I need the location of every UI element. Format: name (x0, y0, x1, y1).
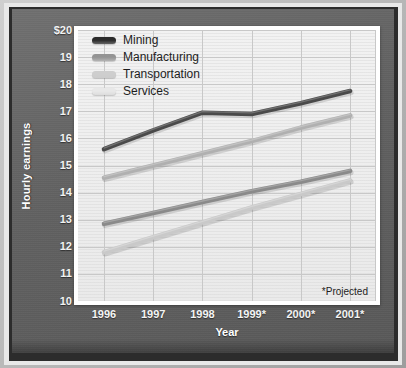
legend-swatch-icon (92, 37, 116, 44)
x-axis-ticks: 1996199719981999*2000*2001* (74, 308, 380, 324)
x-tick-label: 2001* (322, 308, 378, 320)
y-tick-label: 19 (30, 52, 72, 63)
y-tick-label: 11 (30, 268, 72, 279)
legend-item-manufacturing: Manufacturing (92, 49, 200, 65)
y-tick-label: $20 (30, 25, 72, 36)
y-tick-label: 17 (30, 106, 72, 117)
x-tick-label: 1996 (76, 308, 132, 320)
legend-label: Transportation (123, 68, 200, 80)
legend-swatch-icon (92, 71, 116, 78)
y-tick-label: 15 (30, 160, 72, 171)
y-tick-label: 18 (30, 79, 72, 90)
plot-area-frame: MiningManufacturingTransportationService… (74, 26, 380, 305)
legend-swatch-icon (92, 54, 116, 61)
chart-panel: Hourly earnings $2019181716151413121110 … (12, 9, 394, 353)
y-axis-ticks: $2019181716151413121110 (26, 9, 72, 353)
y-tick-label: 14 (30, 187, 72, 198)
legend-label: Services (123, 85, 169, 97)
y-tick-label: 12 (30, 241, 72, 252)
x-axis-title: Year (74, 326, 380, 338)
chart-frame-outer: Hourly earnings $2019181716151413121110 … (0, 0, 406, 368)
y-tick-label: 16 (30, 133, 72, 144)
legend-item-transportation: Transportation (92, 66, 200, 82)
x-tick-label: 1998 (174, 308, 230, 320)
x-tick-label: 1997 (125, 308, 181, 320)
legend-item-mining: Mining (92, 32, 200, 48)
projected-note: *Projected (322, 286, 368, 297)
chart-legend: MiningManufacturingTransportationService… (92, 32, 200, 100)
legend-label: Mining (123, 34, 158, 46)
y-tick-label: 10 (30, 296, 72, 307)
y-tick-label: 13 (30, 214, 72, 225)
legend-swatch-icon (92, 88, 116, 95)
x-tick-label: 1999* (224, 308, 280, 320)
x-tick-label: 2000* (273, 308, 329, 320)
legend-item-services: Services (92, 83, 200, 99)
legend-label: Manufacturing (123, 51, 199, 63)
plot-area: MiningManufacturingTransportationService… (78, 30, 376, 301)
